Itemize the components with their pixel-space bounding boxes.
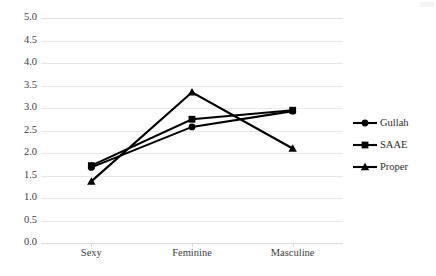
x-axis-tick-mark: [293, 243, 294, 247]
x-axis-tick-mark: [91, 243, 92, 247]
y-axis-tick-label: 5.0: [3, 12, 37, 23]
circle-marker: [362, 120, 369, 127]
y-axis-tick-label: 0.5: [3, 215, 37, 226]
square-marker: [88, 162, 95, 169]
y-axis-tick-label: 0.0: [3, 237, 37, 248]
y-axis-tick-label: 3.5: [3, 80, 37, 91]
y-axis-tick-label: 1.5: [3, 170, 37, 181]
x-axis: SexyFeminineMasculine: [41, 248, 343, 268]
plot-area: [41, 18, 343, 243]
legend: GullahSAAEProper: [352, 112, 436, 178]
y-axis-tick-label: 4.0: [3, 57, 37, 68]
triangle-legend-icon: [352, 160, 378, 174]
y-axis-tick-label: 4.5: [3, 35, 37, 46]
circle-marker: [189, 124, 196, 131]
legend-item-saae[interactable]: SAAE: [352, 134, 436, 156]
series-line: [91, 92, 292, 181]
legend-item-gullah[interactable]: Gullah: [352, 112, 436, 134]
square-legend-icon: [352, 138, 378, 152]
y-axis-tick-label: 3.0: [3, 102, 37, 113]
series-proper: [87, 88, 297, 185]
x-axis-tick-label: Feminine: [172, 248, 212, 259]
x-axis-tick-label: Masculine: [271, 248, 315, 259]
square-marker: [362, 142, 369, 149]
series-layer: [41, 18, 343, 243]
square-marker: [289, 107, 296, 114]
y-axis-tick-label: 1.0: [3, 192, 37, 203]
y-axis: 5.04.54.03.53.02.52.01.51.00.50.0: [0, 18, 37, 243]
line-chart: 5.04.54.03.53.02.52.01.51.00.50.0 SexyFe…: [0, 0, 436, 276]
y-axis-tick-label: 2.5: [3, 125, 37, 136]
legend-item-proper[interactable]: Proper: [352, 156, 436, 178]
y-axis-tick-label: 2.0: [3, 147, 37, 158]
x-axis-tick-label: Sexy: [81, 248, 102, 259]
x-axis-tick-mark: [192, 243, 193, 247]
circle-legend-icon: [352, 116, 378, 130]
legend-item-label: Gullah: [380, 118, 409, 129]
triangle-marker: [188, 88, 196, 95]
corner-artifact: [420, 2, 434, 7]
legend-item-label: Proper: [380, 162, 408, 173]
square-marker: [189, 116, 196, 123]
legend-item-label: SAAE: [380, 140, 407, 151]
